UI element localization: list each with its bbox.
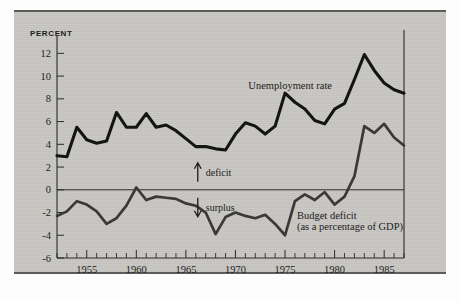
y-tick-label: 2 [46, 162, 51, 173]
axis-unit-label-group: PERCENT [30, 29, 72, 38]
x-axis-major-ticks-group [87, 250, 384, 258]
x-axis-labels-group: 1955196019651970197519801985 [76, 264, 394, 275]
y-tick-label: -2 [42, 207, 51, 218]
figure-chart: PERCENT 121086420-2-4-6 1955196019651970… [0, 0, 460, 302]
x-tick-label: 1955 [76, 264, 97, 275]
chart-canvas: PERCENT 121086420-2-4-6 1955196019651970… [0, 0, 460, 302]
x-tick-label: 1975 [275, 264, 296, 275]
y-tick-label: 6 [46, 116, 51, 127]
x-tick-label: 1970 [225, 264, 246, 275]
x-tick-label: 1985 [374, 264, 395, 275]
y-tick-label: 4 [46, 139, 52, 150]
x-tick-label: 1960 [126, 264, 147, 275]
series-line-unemployment-rate [57, 55, 404, 157]
axis-unit-label: PERCENT [30, 29, 72, 38]
x-axis-minor-ticks-group [57, 253, 404, 258]
y-tick-label: 12 [41, 48, 52, 59]
budget-series-label-line1: Budget deficit [297, 210, 357, 221]
budget-series-label-line2: (as a percentage of GDP) [297, 221, 404, 233]
y-tick-label: 8 [46, 93, 51, 104]
unemployment-series-label: Unemployment rate [248, 80, 332, 91]
y-tick-label: 0 [46, 184, 51, 195]
chart-svg: PERCENT 121086420-2-4-6 1955196019651970… [0, 0, 460, 302]
x-tick-label: 1980 [324, 264, 345, 275]
y-tick-label: -4 [42, 230, 51, 241]
deficit-annotation-label: deficit [206, 167, 232, 178]
y-tick-label: -6 [42, 253, 51, 264]
x-tick-label: 1965 [175, 264, 196, 275]
y-axis-labels-group: 121086420-2-4-6 [41, 48, 52, 264]
y-tick-label: 10 [41, 71, 52, 82]
deficit-arrow-annotation: deficit [194, 163, 231, 182]
up-arrow-icon [194, 163, 201, 182]
surplus-annotation-label: surplus [206, 202, 235, 213]
